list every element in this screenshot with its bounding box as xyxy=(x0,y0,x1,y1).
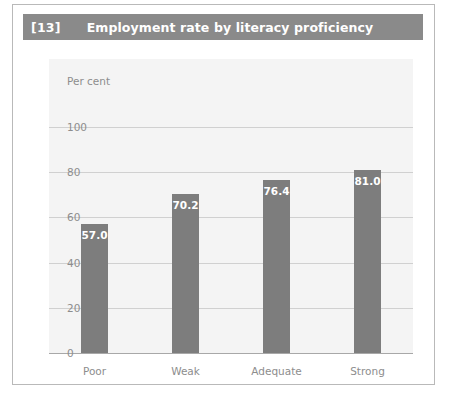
bar-weak xyxy=(172,194,199,353)
bar-value-label: 70.2 xyxy=(162,199,210,211)
y-axis-tick-label: 0 xyxy=(67,347,74,359)
bar-value-label: 81.0 xyxy=(344,175,392,187)
y-axis-tick-label: 40 xyxy=(67,257,80,269)
y-axis-title: Per cent xyxy=(67,75,110,87)
y-axis-tick-label: 60 xyxy=(67,211,80,223)
figure-number: [13] xyxy=(31,20,61,35)
x-axis-tick-label: Poor xyxy=(55,365,135,377)
bar-value-label: 76.4 xyxy=(253,185,301,197)
y-axis-tick-label: 20 xyxy=(67,302,80,314)
x-axis-tick-label: Weak xyxy=(146,365,226,377)
x-axis-tick-label: Strong xyxy=(328,365,408,377)
bar-adequate xyxy=(263,180,290,353)
gridline-100 xyxy=(49,127,413,128)
figure-title-bar: [13] Employment rate by literacy profici… xyxy=(23,14,423,40)
bar-value-label: 57.0 xyxy=(71,229,119,241)
figure-container: [13] Employment rate by literacy profici… xyxy=(12,4,435,385)
y-axis-tick-label: 80 xyxy=(67,166,80,178)
x-axis-tick-label: Adequate xyxy=(237,365,317,377)
page-title: Employment rate by literacy proficiency xyxy=(87,20,374,35)
gridline-0 xyxy=(49,353,413,354)
y-axis-tick-label: 100 xyxy=(67,121,87,133)
bar-strong xyxy=(354,170,381,353)
bar-poor xyxy=(81,224,108,353)
